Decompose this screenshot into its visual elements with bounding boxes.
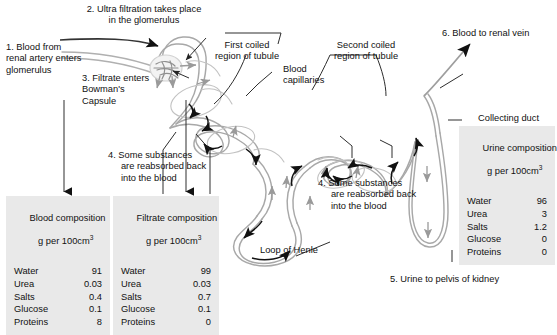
annotation-step-3: 3. Filtrate enters Bowman's Capsule (82, 73, 149, 107)
row-label: Salts (467, 221, 488, 234)
row-value: 0.03 (193, 278, 211, 291)
annotation-second-coiled-region: Second coiled region of tubule (318, 40, 414, 63)
blood-table-rows: Water91Urea0.03Salts0.4Glucose0.1Protein… (14, 265, 102, 328)
glomerulus (150, 55, 182, 81)
row-label: Glucose (467, 233, 501, 246)
table-row: Proteins8 (14, 316, 102, 329)
row-value: 8 (97, 316, 102, 329)
table-row: Glucose0 (467, 233, 547, 246)
row-value: 0.03 (84, 278, 102, 291)
row-value: 0.7 (198, 291, 211, 304)
urine-table-title: Urine composition g per 100cm3 (467, 132, 547, 188)
urine-table-rows: Water96Urea3Salts1.2Glucose0Proteins0 (467, 195, 547, 258)
annotation-first-coiled-region: First coiled region of tubule (203, 40, 291, 63)
row-value: 96 (537, 195, 547, 208)
annotation-collecting-duct: Collecting duct (478, 113, 539, 124)
urine-composition-table: Urine composition g per 100cm3 Water96Ur… (459, 126, 555, 265)
row-label: Proteins (121, 316, 155, 329)
filtrate-table-rows: Water99Urea0.03Salts0.7Glucose0.1Protein… (121, 265, 211, 328)
row-label: Water (14, 265, 38, 278)
annotation-step-2: 2. Ultra filtration takes place in the g… (44, 4, 244, 27)
row-value: 0.1 (198, 303, 211, 316)
row-label: Urea (14, 278, 34, 291)
row-label: Water (467, 195, 491, 208)
table-row: Water91 (14, 265, 102, 278)
table-row: Water99 (121, 265, 211, 278)
row-value: 0.4 (89, 291, 102, 304)
row-value: 0 (542, 246, 547, 259)
row-label: Glucose (121, 303, 155, 316)
row-value: 0 (542, 233, 547, 246)
row-label: Urea (467, 208, 487, 221)
annotation-loop-of-henle: Loop of Henle (260, 245, 318, 256)
table-row: Proteins0 (467, 246, 547, 259)
table-row: Salts1.2 (467, 221, 547, 234)
blood-composition-table: Blood composition g per 100cm3 Water91Ur… (6, 196, 110, 335)
table-row: Glucose0.1 (14, 303, 102, 316)
filtrate-composition-table: Filtrate composition g per 100cm3 Water9… (113, 196, 219, 335)
table-row: Urea0.03 (14, 278, 102, 291)
row-value: 91 (92, 265, 102, 278)
row-value: 3 (542, 208, 547, 221)
annotation-blood-capillaries: Blood capillaries (283, 64, 324, 87)
row-label: Proteins (14, 316, 48, 329)
table-row: Salts0.7 (121, 291, 211, 304)
table-row: Urea3 (467, 208, 547, 221)
annotation-step-5: 5. Urine to pelvis of kidney (390, 274, 499, 285)
row-label: Glucose (14, 303, 48, 316)
row-label: Salts (121, 291, 142, 304)
row-label: Proteins (467, 246, 501, 259)
table-row: Glucose0.1 (121, 303, 211, 316)
row-label: Salts (14, 291, 35, 304)
row-value: 99 (201, 265, 211, 278)
annotation-step-4-right: 4. Some substances are reabsorbed back i… (318, 178, 416, 212)
table-row: Proteins0 (121, 316, 211, 329)
blood-table-title: Blood composition g per 100cm3 (14, 202, 102, 258)
filtrate-table-title: Filtrate composition g per 100cm3 (121, 202, 211, 258)
row-label: Water (121, 265, 145, 278)
row-value: 1.2 (534, 221, 547, 234)
row-label: Urea (121, 278, 141, 291)
annotation-step-6: 6. Blood to renal vein (442, 28, 529, 39)
row-value: 0.1 (89, 303, 102, 316)
row-value: 0 (206, 316, 211, 329)
table-row: Water96 (467, 195, 547, 208)
annotation-step-1: 1. Blood from renal artery enters glomer… (6, 42, 81, 76)
annotation-step-4-left: 4. Some substances are reabsorbed back i… (108, 150, 206, 184)
renal-vein-outflow-arrow (424, 44, 470, 96)
table-row: Urea0.03 (121, 278, 211, 291)
table-row: Salts0.4 (14, 291, 102, 304)
